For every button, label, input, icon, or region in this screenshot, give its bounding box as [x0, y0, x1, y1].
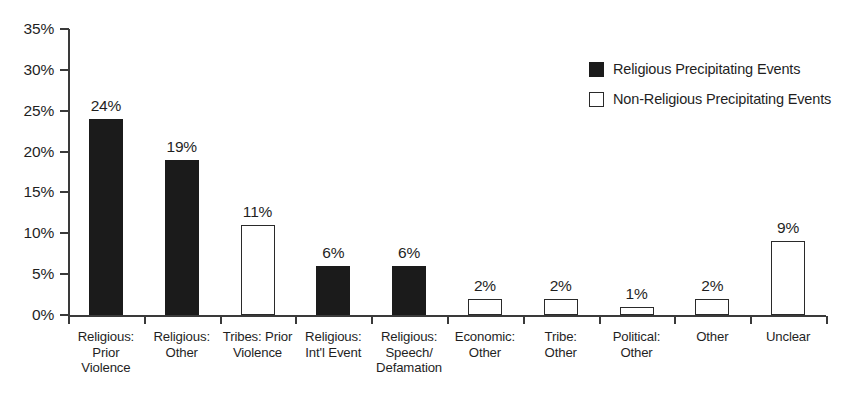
y-axis-tick-label: 30% [8, 62, 54, 78]
bar-value-label: 19% [152, 139, 212, 155]
legend-item: Non-Religious Precipitating Events [589, 84, 831, 114]
x-axis-category-label: Tribe:Other [523, 329, 599, 360]
legend-label: Religious Precipitating Events [613, 62, 800, 77]
x-axis-category-label: Religious:Other [144, 329, 220, 360]
bar-hollow [695, 299, 729, 315]
x-axis-category-label: Religious:PriorViolence [68, 329, 144, 376]
y-axis-tick-label: 15% [8, 184, 54, 200]
x-axis-tick [295, 316, 297, 324]
y-axis-tick [60, 69, 69, 71]
x-axis-category-label-line: Religious: [295, 329, 371, 345]
x-axis-category-label: Economic:Other [447, 329, 523, 360]
x-axis-category-label-line: Other [599, 345, 675, 361]
x-axis-category-label-line: Religious: [68, 329, 144, 345]
x-axis-category-label: Religious:Int'l Event [295, 329, 371, 360]
bar-value-label: 9% [758, 220, 818, 236]
x-axis-category-label-line: Other [523, 345, 599, 361]
x-axis-category-label-line: Violence [220, 345, 296, 361]
x-axis-category-label-line: Prior [68, 345, 144, 361]
y-axis-tick-label: 35% [8, 21, 54, 37]
y-axis-tick [60, 28, 69, 30]
x-axis-category-label-line: Other [144, 345, 220, 361]
bar-hollow [468, 299, 502, 315]
x-axis-category-label-line: Other [447, 345, 523, 361]
x-axis-category-label-line: Tribe: [523, 329, 599, 345]
y-axis-tick-label: 25% [8, 103, 54, 119]
x-axis-tick [523, 316, 525, 324]
x-axis-category-label-line: Unclear [750, 329, 826, 345]
x-axis-category-label-line: Speech/ [371, 345, 447, 361]
y-axis-tick-label: 5% [8, 266, 54, 282]
bar-filled [392, 266, 426, 315]
bar-value-label: 6% [303, 245, 363, 261]
x-axis-tick [447, 316, 449, 324]
legend-swatch-hollow [589, 92, 604, 107]
x-axis-category-label: Other [674, 329, 750, 345]
chart-legend: Religious Precipitating EventsNon-Religi… [589, 54, 831, 114]
x-axis-category-label-line: Tribes: Prior [220, 329, 296, 345]
y-axis-tick [60, 273, 69, 275]
x-axis-category-label: Tribes: PriorViolence [220, 329, 296, 360]
x-axis-category-label-line: Economic: [447, 329, 523, 345]
x-axis-tick [68, 316, 70, 324]
y-axis-tick-label: 0% [8, 307, 54, 323]
bar-value-label: 1% [607, 286, 667, 302]
bar-value-label: 2% [682, 278, 742, 294]
x-axis-tick [220, 316, 222, 324]
x-axis-category-label-line: Int'l Event [295, 345, 371, 361]
bar-value-label: 11% [228, 204, 288, 220]
bar-hollow [544, 299, 578, 315]
bar-value-label: 2% [531, 278, 591, 294]
y-axis-tick-label: 20% [8, 144, 54, 160]
bar-hollow [620, 307, 654, 315]
y-axis-tick [60, 151, 69, 153]
x-axis-tick [599, 316, 601, 324]
x-axis-category-label-line: Other [674, 329, 750, 345]
legend-label: Non-Religious Precipitating Events [613, 92, 831, 107]
legend-item: Religious Precipitating Events [589, 54, 831, 84]
x-axis-category-label-line: Violence [68, 360, 144, 376]
bar-chart: 0%5%10%15%20%25%30%35% 24%19%11%6%6%2%2%… [0, 0, 860, 394]
bar-filled [316, 266, 350, 315]
bar-filled [165, 160, 199, 315]
x-axis-tick [371, 316, 373, 324]
bar-hollow [241, 225, 275, 315]
x-axis-category-label: Religious:Speech/Defamation [371, 329, 447, 376]
y-axis-tick [60, 110, 69, 112]
bar-filled [89, 119, 123, 315]
bar-value-label: 6% [379, 245, 439, 261]
x-axis-category-label-line: Religious: [371, 329, 447, 345]
y-axis-tick-label: 10% [8, 225, 54, 241]
x-axis-category-label: Unclear [750, 329, 826, 345]
x-axis-category-label-line: Religious: [144, 329, 220, 345]
bar-value-label: 2% [455, 278, 515, 294]
y-axis-tick [60, 191, 69, 193]
x-axis-tick [826, 316, 828, 324]
y-axis-tick [60, 232, 69, 234]
bar-hollow [771, 241, 805, 315]
x-axis-category-label-line: Defamation [371, 360, 447, 376]
x-axis-category-label: Political:Other [599, 329, 675, 360]
x-axis-tick [750, 316, 752, 324]
legend-swatch-filled [589, 62, 604, 77]
x-axis-tick [144, 316, 146, 324]
x-axis-tick [674, 316, 676, 324]
x-axis-category-label-line: Political: [599, 329, 675, 345]
bar-value-label: 24% [76, 98, 136, 114]
